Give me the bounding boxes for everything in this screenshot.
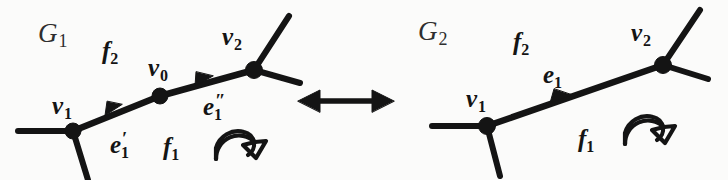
left-vertex-v1-base: v [52,92,63,119]
left-graph-name: G1 [38,20,68,50]
double-headed-arrow-icon [298,90,394,112]
left-vertex-label-v2: v2 [222,24,242,53]
right-vertex-v1-base: v [466,85,477,112]
right-face-label-f2: f2 [513,29,529,58]
left-vertex-v1-dot [65,123,81,139]
right-v2-edge-northeast [663,10,700,65]
right-vertex-v2-base: v [631,19,642,46]
right-vertex-v2-subscript: 2 [643,32,651,49]
left-vertex-label-v1: v1 [52,93,72,122]
left-vertex-v0-dot [152,88,168,104]
right-face-f1-subscript: 1 [586,138,594,155]
left-vertex-v1-subscript: 1 [64,105,72,122]
left-graph-name-subscript: 1 [59,31,68,51]
left-face-f1-subscript: 1 [171,146,179,163]
left-face-f2-subscript: 2 [110,50,118,67]
right-rotation-arrow-icon [625,116,675,144]
left-vertex-v0-base: v [148,54,159,81]
right-vertex-v1-dot [479,118,496,135]
left-edge-e1-prime [73,96,160,131]
left-rotation-arrow-icon [216,131,266,159]
left-face-label-f1: f1 [163,134,179,163]
left-edge-e1-prime-mark: ′ [122,128,127,149]
left-vertex-v2-subscript: 2 [234,36,242,53]
right-face-label-f1: f1 [578,126,594,155]
left-vertex-v0-subscript: 0 [160,67,168,84]
right-vertex-v1-subscript: 1 [478,98,486,115]
right-graph-name-subscript: 2 [439,29,448,49]
left-face-label-f2: f2 [102,38,118,67]
left-v2-edge-northeast [254,16,289,70]
right-vertex-label-v2: v2 [631,20,651,49]
right-vertex-label-v1: v1 [466,86,486,115]
left-vertex-v2-dot [246,62,263,79]
figure-canvas: G1 f2 v0 v1 v2 e1′ e1″ f1 G2 f2 e1 v1 v2… [0,0,728,180]
left-edge-label-e1-prime: e1′ [110,129,127,161]
right-edge-e1-subscript: 1 [554,74,562,91]
right-edge-label-e1: e1 [543,62,562,91]
left-edge-e1-double-prime-mark: ″ [215,90,225,111]
right-graph-name-base: G [418,16,438,46]
right-vertex-v2-dot [655,57,672,74]
left-edge-e1-double-prime-base: e [203,93,214,120]
left-edge-label-e1-double-prime: e1″ [203,91,225,123]
right-face-f2-subscript: 2 [521,41,529,58]
left-edge-e1-prime-base: e [110,131,121,158]
right-graph-name: G2 [418,18,448,48]
left-graph-name-base: G [38,18,58,48]
right-edge-e1-base: e [543,61,554,88]
left-vertex-label-v0: v0 [148,55,168,84]
left-vertex-v2-base: v [222,23,233,50]
